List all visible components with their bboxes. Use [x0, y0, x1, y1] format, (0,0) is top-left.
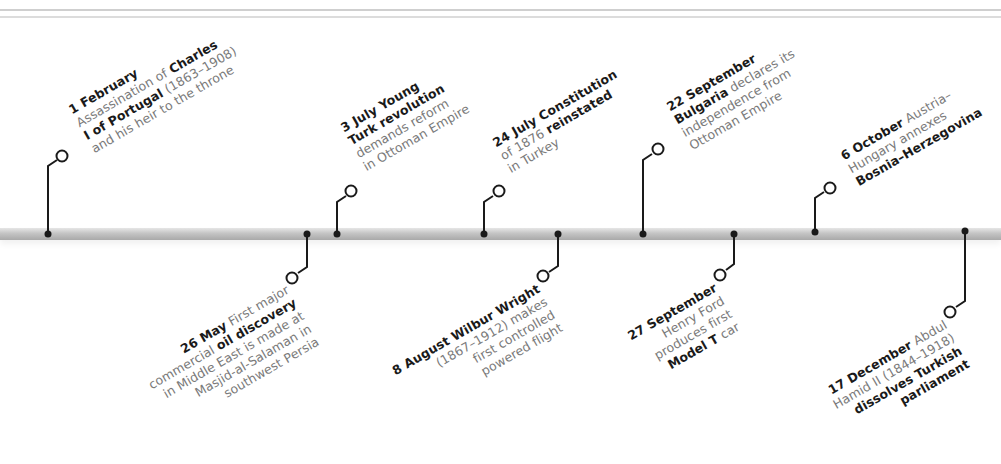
connector-dec17: [945, 228, 969, 318]
connector-feb1: [45, 151, 68, 238]
connector-jul3: [334, 186, 357, 238]
connector-sep22: [640, 144, 664, 238]
connector-jul24: [481, 186, 505, 238]
connector-may26: [287, 231, 311, 284]
connector-sep27: [715, 231, 738, 281]
connector-oct6: [812, 183, 836, 236]
connector-aug8: [538, 231, 562, 282]
